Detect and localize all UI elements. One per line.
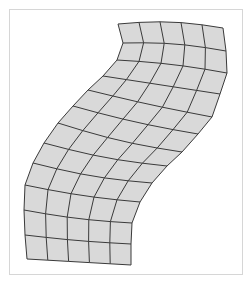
deformed-grid-mesh	[0, 0, 252, 284]
mesh-surface	[24, 22, 227, 265]
